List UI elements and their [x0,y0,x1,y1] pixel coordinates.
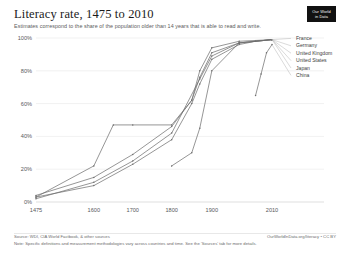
license-text[interactable]: OurWorldInData.org/literacy • CC BY [267,234,336,240]
legend-connector-japan [272,40,291,68]
logo-line-2: in Data [307,14,336,19]
y-tick-label: 20% [21,166,32,172]
x-tick-label: 1600 [88,207,100,213]
data-point [132,164,134,166]
y-tick-label: 80% [21,68,32,74]
plot-area: 0%20%40%60%80%100% 147516001700180019002… [14,34,336,222]
data-point [199,127,201,129]
data-point [199,70,201,72]
data-point [255,95,257,97]
data-point [171,165,173,167]
data-point [260,73,262,75]
data-point [93,177,95,179]
y-axis-ticks: 0%20%40%60%80%100% [18,35,32,205]
series-line-japan [172,40,272,166]
chart-footer: Source: WDI, CIA World Factbook, & other… [14,234,336,247]
data-point [171,126,173,128]
legend-connector-france [272,38,291,39]
legend-label-germany[interactable]: Germany [296,42,317,48]
data-point [93,182,95,184]
data-point [211,70,213,72]
data-point [211,52,213,54]
x-axis-ticks: 147516001700180019002010 [30,207,278,213]
data-point [238,41,240,43]
y-tick-label: 0% [24,199,32,205]
legend-label-china[interactable]: China [296,72,309,78]
x-tick-label: 2010 [266,207,278,213]
data-series-group [35,39,273,200]
legend-connector-united-kingdom [272,40,291,54]
x-tick-label: 1700 [127,207,139,213]
data-point [93,185,95,187]
series-line-france [36,40,272,197]
source-text: Source: WDI, CIA World Factbook, & other… [14,234,110,240]
data-point [35,196,37,198]
data-point [171,139,173,141]
data-point [211,47,213,49]
data-point [199,83,201,85]
legend-label-united-states[interactable]: United States [296,57,327,63]
x-tick-label: 1475 [30,207,42,213]
data-point [191,103,193,105]
data-point [191,100,193,102]
x-tick-label: 1800 [165,207,177,213]
data-point [266,52,268,54]
legend: FranceGermanyUnited KingdomUnited States… [272,35,332,78]
chart-header: Literacy rate, 1475 to 2010 Estimates co… [14,7,336,30]
data-point [132,124,134,126]
data-point [211,55,213,57]
y-tick-label: 60% [21,101,32,107]
data-point [191,152,193,154]
our-world-in-data-logo[interactable]: Our World in Data [307,6,336,22]
y-tick-label: 100% [18,35,32,41]
line-chart-svg: 0%20%40%60%80%100% 147516001700180019002… [14,34,336,222]
legend-label-france[interactable]: France [296,35,312,41]
legend-label-japan[interactable]: Japan [296,65,310,71]
x-tick-label: 1900 [206,207,218,213]
data-point [199,78,201,80]
gridlines [36,38,324,202]
data-point [93,165,95,167]
series-line-china [256,45,272,96]
data-point [132,160,134,162]
series-line-germany [36,40,272,197]
data-point [35,198,37,200]
data-point [211,59,213,61]
data-point [171,132,173,134]
legend-label-united-kingdom[interactable]: United Kingdom [296,50,332,56]
data-point [132,154,134,156]
data-point [35,195,37,197]
data-point [238,42,240,44]
series-line-united-states [36,40,272,199]
y-tick-label: 40% [21,133,32,139]
note-text: Note: Specific definitions and measureme… [14,241,336,247]
page-title: Literacy rate, 1475 to 2010 [14,7,336,21]
chart-subtitle: Estimates correspond to the share of the… [14,22,336,30]
series-line-united-kingdom [36,40,272,196]
data-point [113,124,115,126]
data-point [238,44,240,46]
chart-container: Literacy rate, 1475 to 2010 Estimates co… [0,0,346,254]
